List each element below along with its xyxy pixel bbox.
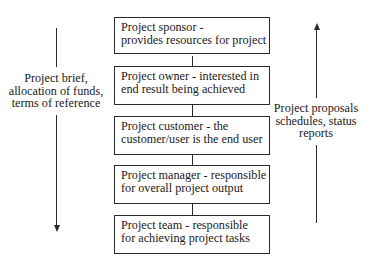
label-line: terms of reference [0, 97, 112, 110]
upward-arrow-line-top [316, 29, 317, 98]
label-line: reports [266, 127, 366, 140]
box-project-owner: Project owner - interested in end result… [114, 66, 270, 105]
box-project-sponsor: Project sponsor - provides resources for… [114, 17, 270, 54]
box-description: end result being achieved [121, 83, 269, 96]
connector-line [192, 56, 193, 66]
upward-flow-label: Project proposals schedules, status repo… [266, 102, 366, 140]
downward-arrow-line-top [56, 28, 57, 67]
downward-flow-label: Project brief, allocation of funds, term… [0, 72, 112, 110]
box-project-customer: Project customer - the customer/user is … [114, 116, 270, 155]
box-project-manager: Project manager - responsible for overal… [114, 165, 270, 204]
connector-line [192, 204, 193, 215]
arrowhead-down-icon [54, 225, 60, 232]
downward-arrow-line-bottom [56, 115, 57, 226]
connector-line [192, 155, 193, 165]
box-description: for overall project output [121, 182, 269, 195]
box-project-team: Project team - responsible for achieving… [114, 215, 270, 254]
box-description: for achieving project tasks [121, 232, 269, 245]
label-line: Project proposals [266, 102, 366, 115]
box-description: provides resources for project [121, 34, 269, 47]
label-line: Project brief, [0, 72, 112, 85]
box-description: customer/user is the end user [121, 133, 269, 146]
upward-arrow-line-bottom [316, 145, 317, 223]
